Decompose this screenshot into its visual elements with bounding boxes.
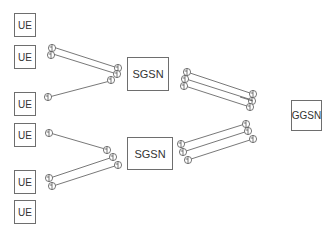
ue-node-1[interactable]: UE [14, 13, 36, 37]
tunnel-sgsn1-ggsn [180, 68, 256, 110]
ue-node-2[interactable]: UE [14, 45, 36, 69]
sgsn-node-bottom[interactable]: SGSN [127, 137, 173, 170]
ue-node-3[interactable]: UE [14, 92, 36, 116]
link-ue3-sgsn1 [44, 76, 114, 100]
link-ue4-sgsn2 [45, 129, 110, 153]
tunnel-sgsn2-ggsn [177, 120, 256, 163]
ue-node-5[interactable]: UE [14, 170, 36, 194]
connection-lines [0, 0, 327, 235]
ggsn-node[interactable]: GGSN [291, 100, 322, 131]
tunnel-ue5-sgsn2 [45, 153, 121, 189]
ue-node-4[interactable]: UE [14, 123, 36, 147]
sgsn-node-top[interactable]: SGSN [127, 57, 169, 91]
tunnel-ue2-sgsn1 [47, 44, 121, 77]
ue-node-6[interactable]: UE [14, 200, 36, 224]
